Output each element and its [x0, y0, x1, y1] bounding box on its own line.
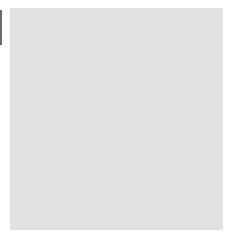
- side-bar: [0, 10, 2, 45]
- go-board: [10, 8, 223, 230]
